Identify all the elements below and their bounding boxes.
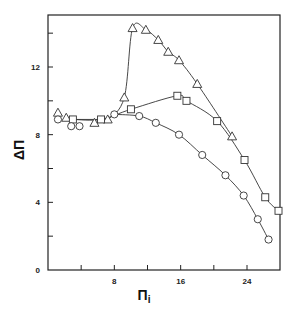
plot-frame xyxy=(48,15,280,270)
series-lines xyxy=(73,23,279,239)
square-marker xyxy=(127,106,134,113)
x-axis-title-main: Π xyxy=(138,287,148,303)
y-tick-label: 4 xyxy=(36,198,41,207)
square-marker xyxy=(275,207,282,214)
square-marker xyxy=(98,116,105,123)
circle-marker xyxy=(222,172,229,179)
square-marker xyxy=(183,97,190,104)
circle-marker xyxy=(76,123,83,130)
x-tick-label: 16 xyxy=(176,277,185,286)
series-line-squares xyxy=(73,95,279,210)
series-line-circles xyxy=(114,114,268,239)
circle-marker xyxy=(175,131,182,138)
series-line-triangles xyxy=(94,23,232,136)
square-marker xyxy=(69,116,76,123)
circle-marker xyxy=(152,119,159,126)
x-tick-label: 24 xyxy=(243,277,252,286)
circle-marker xyxy=(54,116,61,123)
x-axis-title: Πi xyxy=(138,287,151,305)
x-axis-title-subscript: i xyxy=(148,294,151,305)
triangle-marker xyxy=(120,93,129,101)
circle-marker xyxy=(68,123,75,130)
square-marker xyxy=(214,118,221,125)
square-marker xyxy=(241,157,248,164)
triangle-marker xyxy=(193,79,202,87)
circle-marker xyxy=(240,192,247,199)
square-marker xyxy=(174,92,181,99)
series-markers xyxy=(53,24,282,244)
y-tick-label: 0 xyxy=(36,266,41,275)
y-tick-label: 12 xyxy=(31,63,40,72)
x-tick-label: 8 xyxy=(112,277,117,286)
chart-canvas: 8162404812 ΔΠ Πi xyxy=(0,0,288,314)
triangle-marker xyxy=(53,108,62,116)
circle-marker xyxy=(199,151,206,158)
circle-marker xyxy=(111,111,118,118)
circle-marker xyxy=(254,216,261,223)
square-marker xyxy=(262,194,269,201)
plot-border xyxy=(48,15,280,270)
circle-marker xyxy=(136,112,143,119)
triangle-marker xyxy=(141,25,150,33)
circle-marker xyxy=(265,236,272,243)
y-axis-title: ΔΠ xyxy=(11,140,27,160)
triangle-marker xyxy=(128,24,137,32)
y-tick-label: 8 xyxy=(36,131,41,140)
axis-ticks: 8162404812 xyxy=(31,33,252,286)
axis-titles: ΔΠ Πi xyxy=(11,140,151,305)
